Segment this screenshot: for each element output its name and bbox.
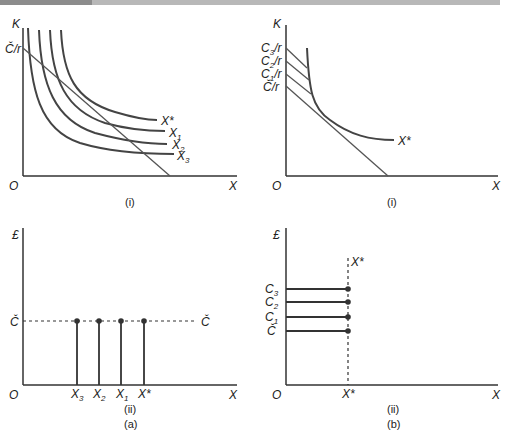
svg-text:(ii): (ii)	[387, 403, 399, 415]
svg-text:(ii): (ii)	[124, 403, 136, 415]
svg-text:X3: X3	[70, 387, 84, 403]
svg-text:O: O	[272, 388, 281, 402]
panel-a-i-isoquants	[28, 28, 174, 154]
svg-text:Č: Č	[201, 314, 210, 329]
svg-text:Č: Č	[10, 314, 19, 329]
panel-b-ii-axes	[286, 228, 498, 385]
svg-text:(a): (a)	[124, 418, 137, 430]
dots	[74, 286, 351, 334]
y-axis-label: K	[12, 17, 21, 31]
svg-text:K: K	[273, 17, 282, 31]
isocost-line	[23, 48, 170, 176]
panel-a-ii-axes	[23, 228, 237, 385]
x-axis-label: X	[228, 179, 238, 193]
svg-text:X*: X*	[137, 387, 151, 401]
isocost-lines-b	[286, 48, 388, 176]
isoquant-x2	[39, 30, 167, 144]
panel-b-i-axes	[286, 25, 498, 176]
svg-text:O: O	[9, 388, 18, 402]
svg-text:X*: X*	[397, 134, 411, 148]
diagram: K Č/r O X X* X1 X2 X3 (i) K C3/r C2/r C1…	[0, 0, 510, 437]
svg-text:O: O	[272, 179, 281, 193]
svg-text:X*: X*	[350, 255, 364, 269]
svg-text:(b): (b)	[387, 418, 400, 430]
svg-text:X*: X*	[341, 387, 355, 401]
svg-text:X: X	[228, 388, 238, 402]
svg-text:£: £	[11, 228, 19, 242]
svg-text:X: X	[491, 388, 501, 402]
cr-label: Č/r	[5, 41, 22, 56]
svg-text:X1: X1	[115, 387, 128, 403]
caption: (i)	[125, 196, 135, 208]
cost-bars	[286, 289, 348, 331]
svg-text:£: £	[272, 228, 280, 242]
svg-text:X: X	[491, 179, 501, 193]
isoquant-xstar-b	[307, 48, 394, 140]
svg-text:X3: X3	[176, 149, 190, 165]
cost-stems	[77, 321, 144, 385]
origin-label: O	[9, 179, 18, 193]
svg-text:X2: X2	[92, 387, 106, 403]
svg-text:Č: Č	[267, 323, 276, 338]
svg-text:(i): (i)	[387, 196, 397, 208]
svg-text:Č/r: Č/r	[263, 79, 280, 94]
